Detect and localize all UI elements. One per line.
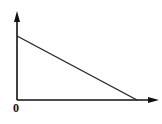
x-axis bbox=[17, 97, 159, 103]
y-axis bbox=[14, 11, 20, 100]
y-axis-arrow-icon bbox=[14, 11, 20, 22]
diagram-canvas bbox=[0, 0, 162, 124]
x-axis-arrow-icon bbox=[148, 97, 159, 103]
decreasing-line bbox=[17, 36, 137, 100]
origin-label: 0 bbox=[13, 102, 19, 114]
